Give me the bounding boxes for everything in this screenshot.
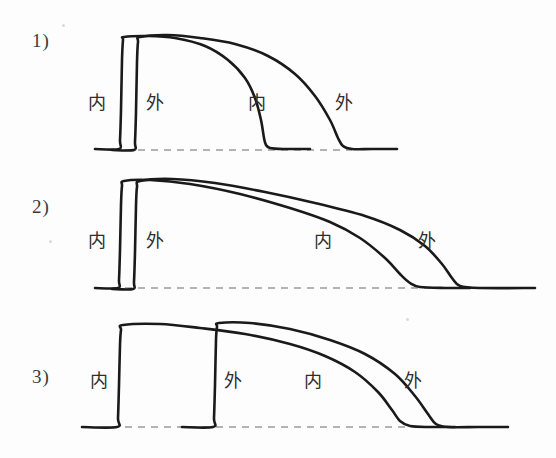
curve-label-outer: 外 <box>224 372 242 390</box>
curve-label-outer: 外 <box>418 232 436 250</box>
curve-label-inner: 内 <box>314 232 332 250</box>
paper-speck <box>62 24 65 27</box>
inner-trace <box>82 324 455 428</box>
curve-label-inner: 内 <box>88 232 106 250</box>
curve-label-outer: 外 <box>404 372 422 390</box>
figure-container: 1)2)3) 内外内外内外内外内外内外 <box>0 0 556 458</box>
paper-speck <box>49 240 52 243</box>
paper-speck <box>406 318 409 321</box>
curve-label-outer: 外 <box>146 94 164 112</box>
curve-label-inner: 内 <box>248 94 266 112</box>
panel-number-1: 1) <box>32 30 50 52</box>
curve-label-inner: 内 <box>88 94 106 112</box>
curve-label-inner: 内 <box>90 372 108 390</box>
panel-number-3: 3) <box>32 366 50 388</box>
curve-label-outer: 外 <box>146 232 164 250</box>
inner-trace <box>95 36 310 150</box>
curve-label-outer: 外 <box>335 94 353 112</box>
panel-number-2: 2) <box>32 196 50 218</box>
waveform-svg <box>0 0 556 458</box>
curve-label-inner: 内 <box>304 372 322 390</box>
